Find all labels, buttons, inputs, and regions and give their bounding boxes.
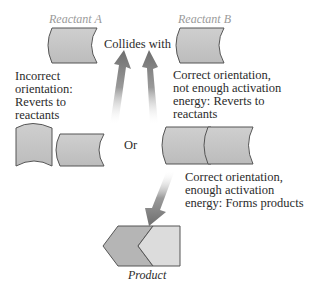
or-label: Or xyxy=(124,139,137,152)
reactant-b-shape xyxy=(176,28,224,63)
not-enough-energy-outcome-text: Correct orientation, not enough activati… xyxy=(173,69,281,121)
collides-with-label: Collides with xyxy=(104,38,171,51)
reactant-b-label: Reactant B xyxy=(178,12,231,27)
product-shape xyxy=(103,226,180,266)
incorrect-outcome-text: Incorrect orientation: Reverts to reacta… xyxy=(15,70,73,122)
reactant-a-shape xyxy=(48,28,97,63)
arrow-up-right-icon xyxy=(142,50,158,125)
product-label: Product xyxy=(128,268,166,283)
reactant-a-label: Reactant A xyxy=(49,12,102,27)
arrow-down-icon xyxy=(145,170,175,226)
incorrect-orientation-shapes xyxy=(16,124,104,167)
enough-energy-outcome-text: Correct orientation, enough activation e… xyxy=(185,171,304,210)
correct-orientation-shapes xyxy=(162,127,253,164)
arrow-up-left-icon xyxy=(110,50,131,125)
